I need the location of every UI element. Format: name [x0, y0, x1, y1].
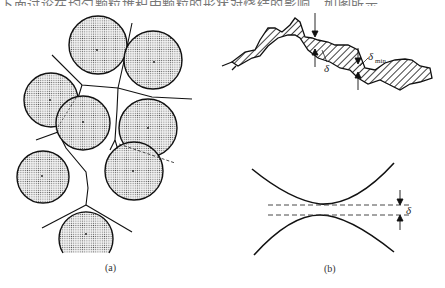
- delta-min-label: δ: [368, 50, 374, 62]
- delta-min-subscript: min: [375, 57, 386, 65]
- panel-b-bottom: δ (b): [252, 163, 412, 275]
- particle-top-left: [69, 16, 127, 74]
- particle-top-right: [124, 31, 182, 89]
- particle-left: [17, 151, 69, 203]
- hatched-gap-region: [232, 18, 432, 90]
- lower-curve: [254, 215, 394, 255]
- caption-a: (a): [105, 262, 116, 274]
- panel-b-top: δ δ min: [222, 13, 432, 90]
- caption-b: (b): [324, 263, 336, 275]
- particle-bottom: [59, 212, 113, 253]
- figure-canvas: (a) δ δ min: [0, 0, 445, 288]
- panel-a: (a): [17, 16, 192, 274]
- gap-dimension: [397, 190, 403, 230]
- delta-label: δ: [324, 62, 330, 74]
- upper-curve: [252, 163, 394, 204]
- particle-mid-left-lower: [56, 96, 110, 150]
- gap-delta-label: δ: [406, 204, 412, 216]
